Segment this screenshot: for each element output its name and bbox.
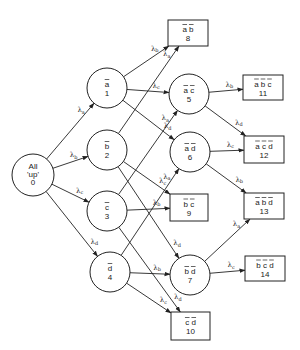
component-c-failed: c: [262, 142, 266, 151]
edges-layer: [46, 46, 250, 313]
rate-label-lambda-a: λa: [77, 106, 84, 115]
component-a-failed: a: [255, 142, 260, 151]
failure-state-box-12: acd12: [244, 136, 284, 163]
component-c-failed: c: [190, 200, 194, 209]
state-number: 10: [186, 327, 195, 336]
edge-7-to-13: [205, 219, 250, 261]
state-number: 8: [186, 34, 191, 43]
state-circle-5: ac5: [169, 74, 209, 114]
state-circle-6: ad6: [170, 132, 210, 172]
state-circle-3: c3: [87, 191, 127, 231]
state-number: 4: [108, 273, 113, 282]
rate-label-lambda-b: λb: [226, 81, 234, 90]
component-b-failed: b: [184, 200, 189, 209]
rate-label-lambda-a: λa: [163, 50, 170, 59]
component-a-failed: a: [183, 25, 188, 34]
component-b-failed: b: [105, 142, 110, 151]
component-c-failed: c: [185, 318, 189, 327]
component-c-failed: c: [263, 261, 267, 270]
rate-label-lambda-b: λb: [151, 45, 159, 54]
failure-state-box-13: abd13: [244, 193, 284, 219]
component-d-failed: d: [269, 261, 273, 270]
rate-label-lambda-d: λd: [174, 293, 182, 302]
component-d-failed: d: [191, 267, 195, 276]
failure-state-box-10: cd10: [171, 312, 210, 340]
node-label: 0: [31, 178, 36, 187]
component-b-failed: b: [261, 80, 266, 89]
state-circle-0: All'up'0: [12, 154, 54, 196]
component-d-failed: d: [108, 264, 112, 273]
rate-label-lambda-c: λc: [227, 141, 234, 150]
component-a-failed: a: [105, 80, 110, 89]
component-c-failed: c: [105, 203, 109, 212]
state-circle-2: b2: [87, 130, 127, 170]
failure-state-box-8: ab8: [168, 20, 208, 46]
failure-state-box-14: bcd14: [245, 256, 285, 281]
component-a-failed: a: [185, 144, 190, 153]
state-number: 9: [187, 209, 192, 218]
failure-state-box-9: bc9: [170, 194, 208, 221]
component-c-failed: c: [268, 80, 272, 89]
edge-1-to-8: [124, 46, 169, 77]
rate-label-lambda-c: λc: [153, 82, 160, 91]
edge-4-to-7: [130, 273, 170, 275]
state-number: 6: [188, 153, 193, 162]
state-number: 5: [187, 95, 192, 104]
component-a-failed: a: [254, 80, 259, 89]
state-number: 13: [260, 207, 269, 216]
rate-label-lambda-d: λd: [173, 239, 181, 248]
edge-0-to-3: [52, 184, 89, 202]
edge-6-to-12: [210, 150, 244, 151]
rate-label-lambda-b: λb: [153, 199, 161, 208]
rate-label-lambda-c: λc: [160, 296, 167, 305]
edge-5-to-11: [209, 89, 243, 92]
state-circle-4: d4: [90, 252, 130, 292]
component-d-failed: d: [191, 144, 195, 153]
state-number: 12: [260, 151, 269, 160]
rate-label-lambda-d: λd: [164, 122, 172, 131]
state-number: 2: [105, 151, 110, 160]
state-number: 1: [105, 89, 110, 98]
rate-label-lambda-b: λb: [70, 151, 78, 160]
component-b-failed: b: [189, 25, 194, 34]
state-number: 14: [261, 270, 270, 279]
rate-label-lambda-c: λc: [76, 187, 83, 196]
component-a-failed: a: [255, 198, 260, 207]
rate-label-lambda-c: λc: [228, 261, 235, 270]
component-d-failed: d: [192, 318, 196, 327]
component-b-failed: b: [262, 198, 267, 207]
state-number: 11: [259, 89, 268, 98]
component-b-failed: b: [185, 267, 190, 276]
rate-label-lambda-a: λa: [233, 220, 240, 229]
component-d-failed: d: [268, 142, 272, 151]
edge-1-to-5: [127, 89, 169, 92]
rate-label-lambda-d: λd: [91, 238, 99, 247]
state-number: 7: [188, 276, 193, 285]
nodes-layer: All'up'0a1b2c3d4ac5ad6bd7ab8bc9cd10abc11…: [12, 20, 285, 340]
state-transition-diagram: All'up'0a1b2c3d4ac5ad6bd7ab8bc9cd10abc11…: [0, 0, 300, 350]
failure-state-box-11: abc11: [243, 75, 283, 100]
rate-label-lambda-d: λd: [235, 119, 243, 128]
component-d-failed: d: [268, 198, 272, 207]
edge-7-to-14: [210, 270, 245, 273]
rate-label-lambda-b: λb: [235, 176, 243, 185]
component-b-failed: b: [256, 261, 261, 270]
state-circle-7: bd7: [170, 255, 210, 295]
edge-3-to-9: [127, 208, 170, 210]
rate-label-lambda-b: λb: [153, 264, 161, 273]
state-number: 3: [105, 212, 110, 221]
component-a-failed: a: [184, 86, 189, 95]
component-c-failed: c: [190, 86, 194, 95]
state-circle-1: a1: [87, 68, 127, 108]
